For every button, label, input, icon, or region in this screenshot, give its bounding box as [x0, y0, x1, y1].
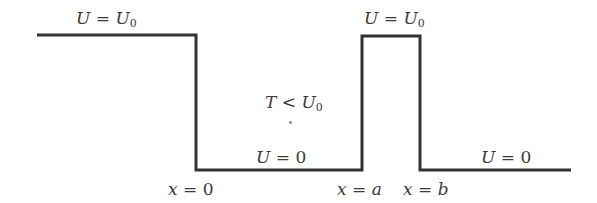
operator: =	[495, 147, 520, 167]
symbol: U	[76, 8, 90, 28]
subscript: 0	[130, 17, 137, 30]
operator: =	[178, 179, 203, 199]
value: 0	[295, 147, 306, 167]
operator: =	[413, 179, 438, 199]
value: 0	[520, 147, 531, 167]
operator: =	[270, 147, 295, 167]
value: 0	[203, 179, 214, 199]
symbol: x	[403, 179, 413, 199]
label-right-floor: U = 0	[481, 149, 531, 166]
symbol: U	[403, 8, 417, 28]
label-energy: T < U0	[265, 94, 323, 113]
label-left-plateau: U = U0	[76, 10, 137, 29]
symbol: a	[372, 179, 382, 199]
label-well-floor: U = 0	[256, 149, 306, 166]
label-x-equals-a: x = a	[337, 181, 382, 198]
symbol: U	[256, 147, 270, 167]
symbol: T	[265, 92, 276, 112]
operator: =	[378, 8, 403, 28]
subscript: 0	[316, 101, 323, 114]
operator: =	[347, 179, 372, 199]
symbol: b	[438, 179, 449, 199]
particle-dot	[289, 121, 292, 124]
operator: =	[90, 8, 115, 28]
label-x-equals-0: x = 0	[168, 181, 213, 198]
symbol: x	[337, 179, 347, 199]
label-barrier-top: U = U0	[364, 10, 425, 29]
label-x-equals-b: x = b	[403, 181, 449, 198]
subscript: 0	[418, 17, 425, 30]
symbol: U	[364, 8, 378, 28]
symbol: U	[481, 147, 495, 167]
symbol: x	[168, 179, 178, 199]
operator: <	[276, 92, 301, 112]
symbol: U	[301, 92, 315, 112]
symbol: U	[115, 8, 129, 28]
